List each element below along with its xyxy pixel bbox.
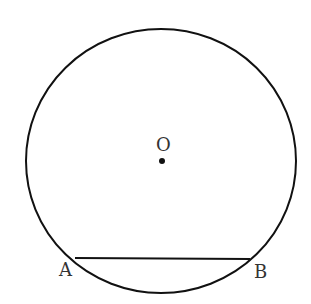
point-a-label: A (58, 259, 73, 280)
chord-ab (75, 258, 250, 259)
point-b-label: B (254, 261, 267, 282)
center-label: O (156, 134, 171, 155)
geometry-diagram: O A B (0, 0, 311, 304)
center-point (159, 158, 165, 164)
